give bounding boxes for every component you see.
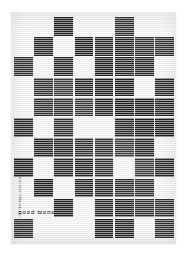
grid-square <box>115 98 134 117</box>
grid-square <box>95 78 114 97</box>
grid-square <box>135 57 154 76</box>
grid-square <box>54 118 73 137</box>
grid-square <box>34 78 53 97</box>
grid-square <box>34 37 53 56</box>
grid-square <box>34 138 53 157</box>
grid-square <box>54 57 73 76</box>
grid-square <box>115 138 134 157</box>
grid-square <box>75 179 94 198</box>
grid-square <box>54 138 73 157</box>
grid-square <box>34 98 53 117</box>
grid-square <box>95 179 114 198</box>
grid-square <box>155 158 174 177</box>
poster-credits-line-2: goed wonen amsterdam 1957 <box>19 193 22 233</box>
grid-square <box>135 98 154 117</box>
grid-square <box>95 219 114 238</box>
grid-square <box>115 57 134 76</box>
poster-sheet: goed wonen een uitgave van de stichting … <box>11 12 176 244</box>
grid-square <box>155 78 174 97</box>
grid-square <box>95 57 114 76</box>
grid-square <box>155 37 174 56</box>
grid-square <box>75 138 94 157</box>
grid-square <box>115 199 134 218</box>
grid-square <box>14 158 33 177</box>
grid-square <box>115 17 134 36</box>
grid-square <box>115 219 134 238</box>
grid-square <box>95 199 114 218</box>
grid-square <box>54 158 73 177</box>
grid-square <box>95 37 114 56</box>
grid-square <box>75 98 94 117</box>
poster-title: goed wonen <box>18 209 60 215</box>
grid-square <box>155 199 174 218</box>
grid-square <box>115 118 134 137</box>
grid-square <box>75 37 94 56</box>
grid-square <box>14 57 33 76</box>
grid-square <box>54 78 73 97</box>
grid-square <box>155 98 174 117</box>
grid-square <box>155 219 174 238</box>
grid-square <box>95 158 114 177</box>
grid-square <box>115 78 134 97</box>
grid-square <box>135 138 154 157</box>
grid-square <box>135 199 154 218</box>
grid-square <box>75 78 94 97</box>
grid-square <box>34 179 53 198</box>
grid-square <box>95 138 114 157</box>
grid-square <box>135 158 154 177</box>
grid-square <box>155 118 174 137</box>
grid-square <box>135 37 154 56</box>
grid-square <box>115 37 134 56</box>
grid-square <box>115 179 134 198</box>
grid-square <box>75 158 94 177</box>
grid-square <box>95 98 114 117</box>
screenshot-canvas: goed wonen een uitgave van de stichting … <box>0 0 187 255</box>
grid-square <box>135 179 154 198</box>
grid-square <box>14 118 33 137</box>
grid-square <box>54 17 73 36</box>
grid-square <box>135 118 154 137</box>
grid-square <box>54 98 73 117</box>
